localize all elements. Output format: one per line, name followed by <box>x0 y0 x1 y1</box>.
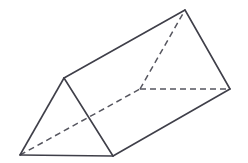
near-bottom-edge <box>20 155 113 156</box>
prism-faces <box>20 10 230 156</box>
prism-figure-canvas <box>0 0 248 163</box>
triangular-prism-drawing <box>0 0 248 163</box>
